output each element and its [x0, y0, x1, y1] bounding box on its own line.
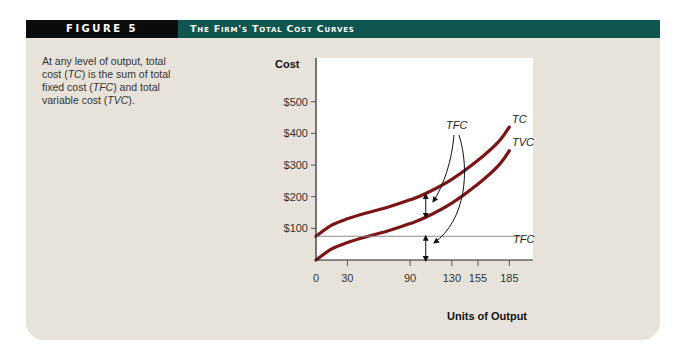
y-tick-label: $100 [284, 222, 308, 234]
x-tick-label: 0 [313, 272, 319, 284]
tc-label: TC [512, 113, 527, 125]
tfc-label: TFC [513, 233, 534, 245]
x-axis-title: Units of Output [447, 310, 527, 322]
x-tick-label: 185 [500, 272, 518, 284]
x-tick-label: 155 [469, 272, 487, 284]
y-tick-label: $500 [284, 96, 308, 108]
tvc-label: TVC [512, 136, 534, 148]
y-tick-label: $400 [284, 127, 308, 139]
plot-area [316, 58, 533, 260]
y-tick-label: $200 [284, 191, 308, 203]
total-cost-chart: $100$200$300$400$50003090130155185CostUn… [0, 0, 684, 358]
tfc-annotation: TFC [446, 119, 467, 131]
x-tick-label: 130 [443, 272, 461, 284]
y-axis-title: Cost [275, 58, 300, 70]
y-tick-label: $300 [284, 159, 308, 171]
x-tick-label: 30 [341, 272, 353, 284]
x-tick-label: 90 [404, 272, 416, 284]
